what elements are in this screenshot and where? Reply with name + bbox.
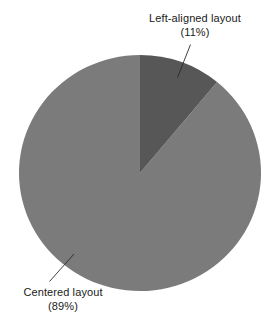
pie-chart-canvas	[0, 0, 273, 330]
pie-label-centered-percent: (89%)	[0, 300, 128, 314]
pie-label-left-aligned-layout: Left-aligned layout (11%)	[128, 12, 262, 39]
pie-label-centered-name: Centered layout	[0, 286, 128, 300]
pie-label-left-aligned-name: Left-aligned layout	[128, 12, 262, 26]
pie-chart: Left-aligned layout (11%) Centered layou…	[0, 0, 273, 330]
pie-label-centered-layout: Centered layout (89%)	[0, 286, 128, 313]
pie-label-left-aligned-percent: (11%)	[128, 26, 262, 40]
